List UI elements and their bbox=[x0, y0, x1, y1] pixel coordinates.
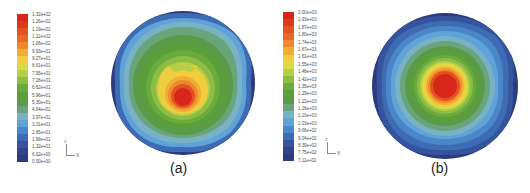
colorbar-tick-label: 1.32e+01 bbox=[32, 144, 51, 149]
colorbar-tick-label: 2.00e+03 bbox=[298, 10, 317, 15]
colorbar-band bbox=[17, 84, 28, 91]
colorbar-tick-label: 1.26e+02 bbox=[32, 19, 51, 24]
colorbar-band bbox=[283, 154, 294, 161]
colorbar-band bbox=[17, 99, 28, 106]
colorbar-tick-label: 7.75e+02 bbox=[298, 150, 317, 155]
panel-a: 1.32e+021.26e+021.19e+021.12e+021.06e+02… bbox=[0, 0, 265, 193]
colorbar-tick-label: 9.93e+01 bbox=[32, 49, 51, 54]
colorbar-band bbox=[283, 40, 294, 47]
contour-plot-b bbox=[371, 12, 519, 160]
colorbar-tick-label: 1.87e+03 bbox=[298, 25, 317, 30]
colorbar-b bbox=[283, 12, 294, 161]
colorbar-band bbox=[283, 62, 294, 69]
colorbar-tick-label: 0.00e+00 bbox=[32, 159, 51, 164]
axis-triad-b-z-label: Z bbox=[325, 137, 327, 142]
colorbar-band bbox=[17, 134, 28, 141]
colorbar-band bbox=[283, 76, 294, 83]
colorbar-band bbox=[17, 113, 28, 120]
colorbar-tick-label: 7.95e+01 bbox=[32, 71, 51, 76]
colorbar-band bbox=[17, 63, 28, 70]
axis-triad-a-x-label: X bbox=[76, 152, 79, 158]
colorbar-band bbox=[283, 140, 294, 147]
colorbar-tick-label: 1.32e+02 bbox=[32, 12, 51, 17]
colorbar-tick-label: 1.29e+03 bbox=[298, 91, 317, 96]
colorbar-tick-label: 8.61e+01 bbox=[32, 63, 51, 68]
colorbar-tick-label: 1.06e+02 bbox=[32, 41, 51, 46]
colorbar-band bbox=[17, 70, 28, 77]
colorbar-band bbox=[283, 12, 294, 19]
colorbar-tick-label: 1.99e+01 bbox=[32, 137, 51, 142]
colorbar-band bbox=[17, 35, 28, 42]
colorbar-tick-label: 5.96e+01 bbox=[32, 93, 51, 98]
colorbar-band bbox=[17, 14, 28, 21]
colorbar-b-ticks: 2.00e+031.93e+031.87e+031.80e+031.74e+03… bbox=[298, 10, 317, 163]
colorbar-tick-label: 1.67e+03 bbox=[298, 47, 317, 52]
colorbar-band bbox=[283, 133, 294, 140]
colorbar-band bbox=[283, 19, 294, 26]
colorbar-tick-label: 1.12e+02 bbox=[32, 34, 51, 39]
colorbar-tick-label: 1.93e+03 bbox=[298, 17, 317, 22]
colorbar-tick-label: 1.80e+03 bbox=[298, 32, 317, 37]
colorbar-tick-label: 1.61e+03 bbox=[298, 54, 317, 59]
colorbar-band bbox=[17, 120, 28, 127]
colorbar-band bbox=[17, 148, 28, 155]
colorbar-tick-label: 1.35e+03 bbox=[298, 84, 317, 89]
colorbar-band bbox=[283, 33, 294, 40]
colorbar-tick-label: 1.16e+03 bbox=[298, 106, 317, 111]
colorbar-tick-label: 5.30e+01 bbox=[32, 100, 51, 105]
colorbar-band bbox=[17, 141, 28, 148]
contour-plot-a bbox=[110, 10, 256, 156]
colorbar-tick-label: 1.55e+03 bbox=[298, 62, 317, 67]
colorbar-tick-label: 1.74e+03 bbox=[298, 40, 317, 45]
colorbar-tick-label: 4.64e+01 bbox=[32, 107, 51, 112]
colorbar-band bbox=[17, 21, 28, 28]
colorbar-band bbox=[17, 42, 28, 49]
colorbar-tick-label: 1.22e+03 bbox=[298, 99, 317, 104]
colorbar-tick-label: 7.28e+01 bbox=[32, 78, 51, 83]
colorbar-band bbox=[283, 111, 294, 118]
colorbar-tick-label: 6.62e+00 bbox=[32, 152, 51, 157]
axis-triad-b-x-label: X bbox=[337, 150, 340, 156]
colorbar-tick-label: 3.97e+01 bbox=[32, 115, 51, 120]
colorbar-band bbox=[17, 155, 28, 162]
colorbar-band bbox=[283, 90, 294, 97]
colorbar-tick-label: 7.11e+02 bbox=[298, 158, 317, 163]
colorbar-band bbox=[283, 83, 294, 90]
colorbar-tick-label: 6.62e+01 bbox=[32, 85, 51, 90]
colorbar-tick-label: 1.10e+03 bbox=[298, 113, 317, 118]
panel-b: 2.00e+031.93e+031.87e+031.80e+031.74e+03… bbox=[265, 0, 530, 193]
subplot-label-a: (a) bbox=[170, 160, 187, 176]
colorbar-band bbox=[17, 56, 28, 63]
colorbar-tick-label: 1.48e+03 bbox=[298, 69, 317, 74]
axis-triad-a-icon: Z X bbox=[64, 144, 82, 160]
colorbar-tick-label: 1.42e+03 bbox=[298, 77, 317, 82]
colorbar-tick-label: 1.03e+03 bbox=[298, 121, 317, 126]
colorbar-tick-label: 2.65e+01 bbox=[32, 130, 51, 135]
colorbar-band bbox=[283, 126, 294, 133]
colorbar-tick-label: 8.39e+02 bbox=[298, 143, 317, 148]
colorbar-band bbox=[283, 55, 294, 62]
colorbar-a bbox=[17, 14, 28, 162]
colorbar-band bbox=[283, 97, 294, 104]
colorbar-band bbox=[283, 69, 294, 76]
subplot-label-b: (b) bbox=[431, 160, 448, 176]
colorbar-tick-label: 1.19e+02 bbox=[32, 27, 51, 32]
colorbar-band bbox=[17, 28, 28, 35]
axis-triad-b-icon: Z X bbox=[325, 142, 343, 158]
colorbar-band bbox=[283, 104, 294, 111]
colorbar-band bbox=[17, 49, 28, 56]
colorbar-tick-label: 9.66e+02 bbox=[298, 128, 317, 133]
colorbar-band bbox=[17, 106, 28, 113]
colorbar-band bbox=[283, 26, 294, 33]
colorbar-band bbox=[283, 118, 294, 125]
colorbar-band bbox=[17, 77, 28, 84]
colorbar-a-ticks: 1.32e+021.26e+021.19e+021.12e+021.06e+02… bbox=[32, 12, 51, 164]
colorbar-band bbox=[17, 127, 28, 134]
colorbar-tick-label: 9.04e+02 bbox=[298, 136, 317, 141]
colorbar-tick-label: 9.27e+01 bbox=[32, 56, 51, 61]
axis-triad-a-z-label: Z bbox=[64, 139, 66, 144]
colorbar-band bbox=[283, 147, 294, 154]
colorbar-band bbox=[283, 47, 294, 54]
colorbar-band bbox=[17, 92, 28, 99]
colorbar-tick-label: 3.31e+01 bbox=[32, 122, 51, 127]
